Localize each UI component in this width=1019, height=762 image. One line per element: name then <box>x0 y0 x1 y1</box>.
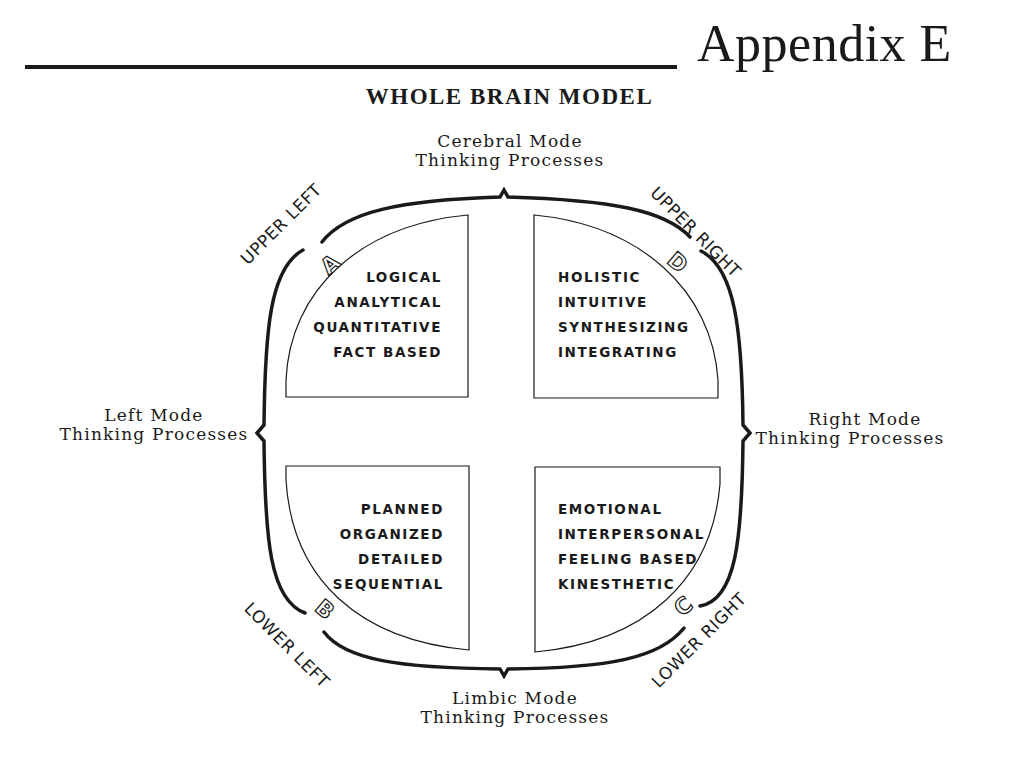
mode-cerebral: Cerebral Mode Thinking Processes <box>405 132 615 170</box>
trait-item: ANALYTICAL <box>312 290 442 315</box>
whole-brain-diagram: A D B C <box>0 0 1019 762</box>
trait-item: FACT BASED <box>312 340 442 365</box>
mode-left: Left Mode Thinking Processes <box>52 406 256 444</box>
quadrant-c-traits: EMOTIONAL INTERPERSONAL FEELING BASED KI… <box>558 497 718 597</box>
mode-right: Right Mode Thinking Processes <box>750 410 950 448</box>
mode-left-line1: Left Mode <box>52 406 256 425</box>
quadrant-d-traits: HOLISTIC INTUITIVE SYNTHESIZING INTEGRAT… <box>558 265 718 365</box>
left-bracket <box>257 250 305 613</box>
mode-cerebral-line2: Thinking Processes <box>405 151 615 170</box>
trait-item: QUANTITATIVE <box>312 315 442 340</box>
trait-item: FEELING BASED <box>558 547 718 572</box>
trait-item: LOGICAL <box>312 265 442 290</box>
trait-item: INTERPERSONAL <box>558 522 718 547</box>
quadrant-a-traits: LOGICAL ANALYTICAL QUANTITATIVE FACT BAS… <box>312 265 442 365</box>
mode-left-line2: Thinking Processes <box>52 425 256 444</box>
top-bracket <box>322 190 690 242</box>
quadrant-b-letter-icon: B <box>310 594 339 624</box>
trait-item: DETAILED <box>314 547 444 572</box>
mode-limbic: Limbic Mode Thinking Processes <box>400 689 630 727</box>
mode-right-line1: Right Mode <box>750 410 950 429</box>
quadrant-b-traits: PLANNED ORGANIZED DETAILED SEQUENTIAL <box>314 497 444 597</box>
mode-right-line2: Thinking Processes <box>750 429 950 448</box>
mode-cerebral-line1: Cerebral Mode <box>405 132 615 151</box>
trait-item: SEQUENTIAL <box>314 572 444 597</box>
trait-item: HOLISTIC <box>558 265 718 290</box>
trait-item: ORGANIZED <box>314 522 444 547</box>
mode-limbic-line1: Limbic Mode <box>400 689 630 708</box>
trait-item: INTUITIVE <box>558 290 718 315</box>
mode-limbic-line2: Thinking Processes <box>400 708 630 727</box>
trait-item: INTEGRATING <box>558 340 718 365</box>
trait-item: SYNTHESIZING <box>558 315 718 340</box>
bottom-bracket <box>324 628 684 676</box>
trait-item: PLANNED <box>314 497 444 522</box>
trait-item: EMOTIONAL <box>558 497 718 522</box>
trait-item: KINESTHETIC <box>558 572 718 597</box>
